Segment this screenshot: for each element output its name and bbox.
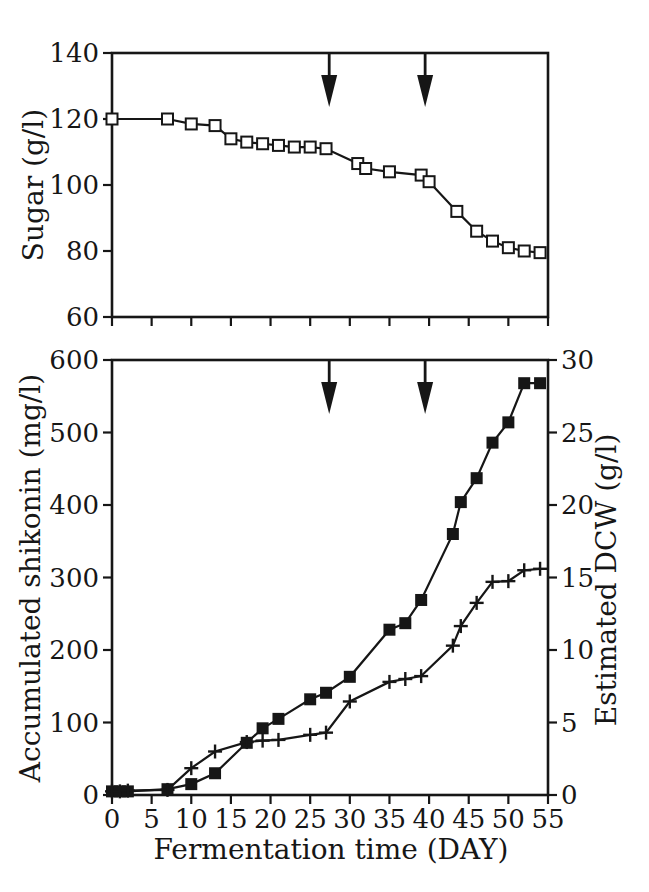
shikonin-y-axis-title: Accumulated shikonin (mg/l)	[14, 374, 47, 782]
x-tick-label: 15	[214, 804, 247, 834]
accumulated-shikonin-marker	[320, 687, 332, 699]
y-tick-label-left: 300	[49, 563, 99, 593]
sugar-marker	[384, 166, 395, 177]
y-tick-label-right: 0	[561, 780, 578, 810]
y-tick-label-left: 100	[49, 170, 99, 200]
event-arrow-head-icon	[417, 75, 433, 107]
sugar-marker	[162, 114, 173, 125]
x-tick-label: 45	[452, 804, 485, 834]
x-tick-label: 55	[531, 804, 564, 834]
x-tick-label: 0	[104, 804, 121, 834]
sugar-marker	[321, 143, 332, 154]
accumulated-shikonin-marker	[399, 617, 411, 629]
y-tick-label-left: 120	[49, 104, 99, 134]
accumulated-shikonin-marker	[344, 671, 356, 683]
x-tick-label: 35	[373, 804, 406, 834]
event-arrow-head-icon	[321, 382, 337, 414]
sugar-marker	[451, 206, 462, 217]
accumulated-shikonin-marker	[518, 377, 530, 389]
y-tick-label-right: 5	[561, 708, 578, 738]
accumulated-shikonin-marker	[185, 778, 197, 790]
shikonin-dcw-chart: 0510152025303540455055010020030040050060…	[49, 345, 594, 834]
sugar-marker	[487, 236, 498, 247]
y-tick-label-left: 80	[66, 236, 99, 266]
x-tick-label: 10	[175, 804, 208, 834]
accumulated-shikonin-marker	[209, 767, 221, 779]
accumulated-shikonin-marker	[304, 693, 316, 705]
sugar-marker	[360, 163, 371, 174]
accumulated-shikonin-marker	[471, 472, 483, 484]
accumulated-shikonin-marker	[534, 377, 546, 389]
y-tick-label-left: 0	[82, 780, 99, 810]
accumulated-shikonin-marker	[447, 528, 459, 540]
sugar-marker	[519, 246, 530, 257]
dcw-y-axis-title: Estimated DCW (g/l)	[590, 434, 623, 727]
accumulated-shikonin-marker	[272, 713, 284, 725]
sugar-chart: 6080100120140	[49, 38, 548, 332]
figure-svg: 6080100120140051015202530354045505501002…	[0, 0, 649, 892]
sugar-marker	[225, 133, 236, 144]
sugar-y-axis-title: Sugar (g/l)	[17, 109, 50, 261]
sugar-marker	[210, 120, 221, 131]
x-tick-label: 20	[254, 804, 287, 834]
accumulated-shikonin-marker	[257, 722, 269, 734]
sugar-marker	[273, 140, 284, 151]
y-tick-label-left: 200	[49, 635, 99, 665]
sugar-marker	[289, 142, 300, 153]
x-tick-label: 40	[413, 804, 446, 834]
x-tick-label: 25	[294, 804, 327, 834]
y-tick-label-left: 600	[49, 345, 99, 375]
y-tick-label-left: 140	[49, 38, 99, 68]
sugar-marker	[424, 176, 435, 187]
y-tick-label-left: 60	[66, 302, 99, 332]
sugar-marker	[241, 137, 252, 148]
y-tick-label-left: 100	[49, 708, 99, 738]
y-tick-label-right: 30	[561, 345, 594, 375]
x-axis-title: Fermentation time (DAY)	[153, 833, 508, 866]
sugar-marker	[107, 114, 118, 125]
x-tick-label: 30	[333, 804, 366, 834]
accumulated-shikonin-marker	[415, 594, 427, 606]
plot-frame	[112, 360, 548, 795]
sugar-marker	[305, 142, 316, 153]
accumulated-shikonin-marker	[383, 624, 395, 636]
sugar-marker	[471, 226, 482, 237]
y-tick-label-left: 500	[49, 418, 99, 448]
event-arrow-head-icon	[417, 382, 433, 414]
accumulated-shikonin-marker	[455, 496, 467, 508]
x-tick-label: 50	[492, 804, 525, 834]
sugar-marker	[535, 247, 546, 258]
sugar-marker	[503, 242, 514, 253]
y-tick-label-left: 400	[49, 490, 99, 520]
sugar-marker	[257, 138, 268, 149]
accumulated-shikonin-marker	[487, 437, 499, 449]
x-tick-label: 5	[143, 804, 160, 834]
accumulated-shikonin-marker	[502, 416, 514, 428]
sugar-marker	[186, 118, 197, 129]
figure: 6080100120140051015202530354045505501002…	[0, 0, 649, 892]
event-arrow-head-icon	[321, 75, 337, 107]
